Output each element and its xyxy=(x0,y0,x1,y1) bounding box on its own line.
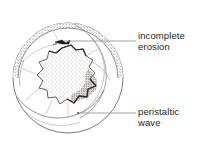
leader-dot-peristaltic-wave xyxy=(77,112,79,114)
label-incomplete-erosion: incomplete erosion xyxy=(138,31,185,52)
figure-illustration: incomplete erosion peristaltic wave xyxy=(0,0,197,154)
label-peristaltic-wave: peristaltic wave xyxy=(138,107,179,128)
anatomical-drawing-svg xyxy=(0,0,197,154)
